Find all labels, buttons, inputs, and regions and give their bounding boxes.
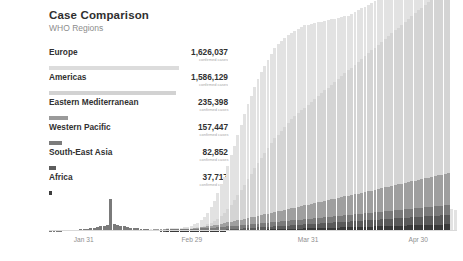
x-axis-tick-label: Mar 31: [298, 235, 319, 245]
bar-column[interactable]: [454, 210, 457, 231]
x-axis-ticks: Jan 31Feb 29Mar 31Apr 30: [49, 235, 457, 249]
stacked-bar-series: [49, 14, 457, 231]
bar-column[interactable]: [447, 0, 450, 231]
bar-segment: [447, 0, 450, 173]
bar-segment: [447, 173, 450, 205]
case-comparison-panel: Case Comparison WHO Regions Europe1,626,…: [0, 0, 463, 261]
chart-plot-area: [49, 14, 457, 231]
x-axis-line: [49, 230, 457, 231]
x-axis-tick-label: Apr 30: [409, 235, 428, 245]
x-axis-tick-label: Jan 31: [74, 235, 94, 245]
bar-segment: [454, 210, 457, 231]
x-axis-tick-label: Feb 29: [182, 235, 203, 245]
